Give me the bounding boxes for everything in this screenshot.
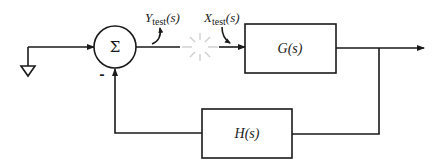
forward-block-label: G(s) [278, 41, 303, 57]
ground-icon [21, 47, 35, 76]
feedback-block: H(s) [202, 109, 292, 158]
loop-break-icon [182, 33, 218, 61]
feedback-block-label: H(s) [234, 126, 260, 142]
y-test-pointer [152, 28, 160, 44]
summing-junction: Σ [94, 26, 136, 68]
feedback-return-line [115, 69, 202, 133]
x-test-pointer [222, 27, 230, 43]
block-diagram: Σ - Ytest(s) Xtest(s) G(s) H(s) [0, 0, 443, 166]
forward-block: G(s) [245, 24, 336, 73]
x-test-label: Xtest(s) [203, 10, 240, 27]
minus-sign: - [99, 67, 104, 82]
sigma-symbol: Σ [110, 38, 121, 56]
y-test-label: Ytest(s) [145, 10, 180, 27]
